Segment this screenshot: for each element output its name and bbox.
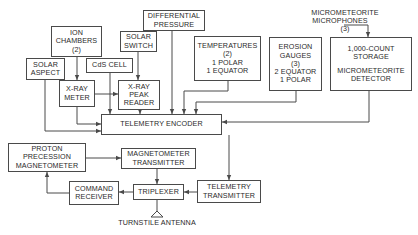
block-label: 1 EQUATOR	[207, 67, 249, 75]
block-label: ASPECT	[31, 69, 60, 77]
proton-magnetometer-block: PROTON PRECESSION MAGNETOMETER	[8, 143, 86, 172]
block-label: CdS CELL	[92, 61, 127, 69]
magnetometer-transmitter-block: MAGNETOMETER TRANSMITTER	[121, 148, 196, 169]
block-label: (2)	[72, 46, 81, 54]
block-label: RECEIVER	[75, 193, 113, 201]
block-label: TRIPLEXER	[138, 188, 179, 196]
block-label: TELEMETRY ENCODER	[120, 120, 203, 128]
block-label: TRANSMITTER	[132, 159, 184, 167]
temperatures-block: TEMPERATURES (2) 1 POLAR 1 EQUATOR	[194, 36, 261, 81]
xray-meter-block: X-RAY METER	[59, 80, 95, 107]
block-label: DETECTOR	[351, 75, 391, 83]
block-label: METER	[64, 94, 90, 102]
solar-switch-block: SOLAR SWITCH	[120, 31, 157, 52]
ion-chambers-block: ION CHAMBERS (2)	[51, 26, 102, 57]
telemetry-transmitter-block: TELEMETRY TRANSMITTER	[197, 180, 261, 203]
block-label: TRANSMITTER	[203, 192, 255, 200]
micrometeorite-microphones-label: MICROMETEORITE MICROPHONES (3)	[290, 9, 400, 33]
differential-pressure-block: DIFFERENTIAL PRESSURE	[143, 10, 205, 31]
micrometeorite-detector-block: 1,000-COUNT STORAGE MICROMETEORITE DETEC…	[330, 37, 412, 91]
xray-peak-reader-block: X-RAY PEAK READER	[118, 80, 160, 110]
block-label: PRESSURE	[154, 21, 194, 29]
solar-aspect-block: SOLAR ASPECT	[26, 58, 65, 80]
triplexer-block: TRIPLEXER	[133, 184, 184, 200]
label-line: (3)	[290, 25, 400, 33]
block-label: 1 POLAR	[280, 76, 311, 84]
cds-cell-block: CdS CELL	[86, 58, 133, 73]
turnstile-antenna-label: TURNSTILE ANTENNA	[107, 219, 207, 227]
block-label: MAGNETOMETER	[16, 162, 79, 170]
block-label: STORAGE	[353, 53, 389, 61]
block-label: READER	[124, 99, 155, 107]
block-label: SWITCH	[124, 42, 153, 50]
telemetry-encoder-block: TELEMETRY ENCODER	[101, 114, 222, 135]
command-receiver-block: COMMAND RECEIVER	[69, 181, 119, 205]
erosion-gauges-block: EROSION GAUGES (3) 2 EQUATOR 1 POLAR	[269, 37, 322, 91]
